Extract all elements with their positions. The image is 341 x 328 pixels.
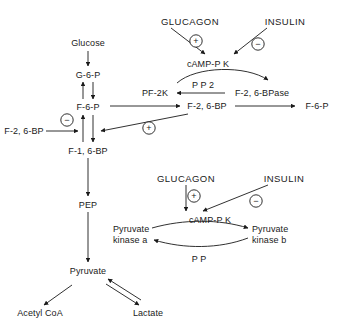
node-insulin-upper: INSULIN — [265, 17, 306, 27]
pyruvate-kinase-b-line1: Pyruvate — [252, 224, 288, 235]
node-glucose: Glucose — [71, 38, 105, 48]
minus-sign-upper-insulin: − — [255, 39, 260, 49]
pathway-arrows-layer — [0, 0, 341, 328]
node-f6p: F-6-P — [77, 102, 100, 112]
node-glucagon-upper: GLUCAGON — [161, 17, 219, 27]
node-pyruvate-kinase-a: Pyruvate kinase a — [113, 224, 149, 246]
pyruvate-kinase-a-line2: kinase a — [113, 235, 149, 246]
node-f26bp-center: F-2, 6-BP — [187, 101, 226, 111]
node-f26bp-left: F-2, 6-BP — [4, 126, 43, 136]
node-glucagon-lower: GLUCAGON — [157, 174, 215, 184]
node-pep: PEP — [79, 200, 97, 210]
node-pf2k: PF-2K — [142, 88, 168, 98]
node-camp-pk-lower: cAMP-P K — [189, 215, 231, 225]
arrow-pk-b-to-pk-a — [154, 238, 248, 247]
arrow-camppk-to-f26bpase — [177, 69, 268, 83]
label-pp2: P P 2 — [192, 80, 214, 90]
arrow-pyruvate-to-lactate — [106, 284, 139, 305]
arrow-lactate-to-pyruvate — [108, 279, 141, 300]
pyruvate-kinase-a-line1: Pyruvate — [113, 224, 149, 235]
node-f16bp: F-1, 6-BP — [68, 146, 107, 156]
pyruvate-kinase-b-line2: kinase b — [252, 235, 288, 246]
arrow-pyruvate-to-acetylcoa — [44, 285, 72, 305]
plus-sign-lower-glucagon: + — [191, 191, 196, 201]
plus-sign-f26bp-activation: + — [146, 123, 151, 133]
node-pyruvate-kinase-b: Pyruvate kinase b — [252, 224, 288, 246]
label-pp: P P — [192, 254, 207, 264]
pathway-diagram-canvas: Glucose G-6-P F-6-P F-1, 6-BP PEP Pyruva… — [0, 0, 341, 328]
node-g6p: G-6-P — [76, 70, 101, 80]
node-f6p-right: F-6-P — [306, 101, 329, 111]
node-f26bpase: F-2, 6-BPase — [235, 88, 289, 98]
node-lactate: Lactate — [133, 308, 163, 318]
node-camp-pk-upper: cAMP-P K — [187, 59, 229, 69]
minus-sign-lower-insulin: − — [253, 196, 258, 206]
node-pyruvate: Pyruvate — [70, 266, 106, 276]
minus-sign-f26bp-left: − — [64, 115, 69, 125]
plus-sign-upper-glucagon: + — [193, 36, 198, 46]
node-insulin-lower: INSULIN — [264, 174, 305, 184]
node-acetyl-coa: Acetyl CoA — [17, 308, 63, 318]
